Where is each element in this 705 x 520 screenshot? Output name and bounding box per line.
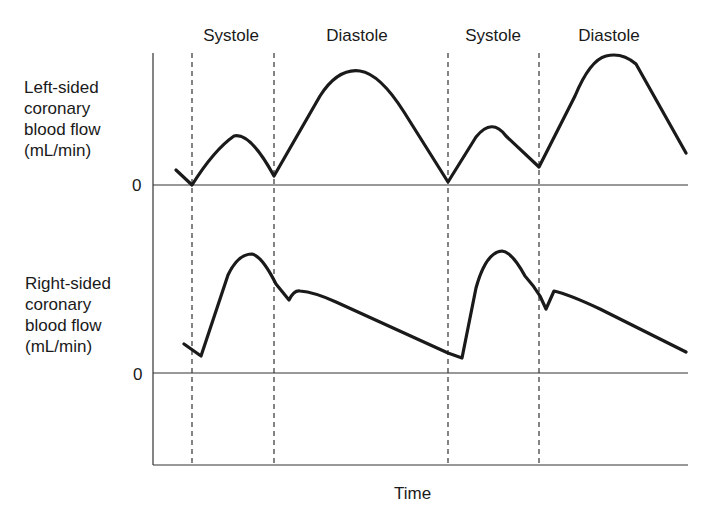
left-ylabel: Left-sided coronary blood flow (mL/min) xyxy=(24,77,101,161)
right-ylabel-line: coronary xyxy=(25,294,111,315)
phase-label-systole-2: Systole xyxy=(465,26,521,46)
right-ylabel-line: Right-sided xyxy=(25,273,111,294)
phase-label-systole-1: Systole xyxy=(203,26,259,46)
left-zero-label: 0 xyxy=(132,175,141,196)
right-ylabel-line: blood flow xyxy=(25,315,111,336)
x-axis-label: Time xyxy=(394,483,431,504)
right-ylabel-line: (mL/min) xyxy=(25,336,111,357)
right-zero-label: 0 xyxy=(133,364,142,385)
flow-chart xyxy=(0,0,705,520)
left-ylabel-line: (mL/min) xyxy=(24,140,101,161)
left-flow-curve xyxy=(176,55,686,185)
phase-label-diastole-2: Diastole xyxy=(578,26,639,46)
phase-label-diastole-1: Diastole xyxy=(326,26,387,46)
right-flow-curve xyxy=(184,251,686,358)
right-ylabel: Right-sided coronary blood flow (mL/min) xyxy=(25,273,111,357)
left-ylabel-line: Left-sided xyxy=(24,77,101,98)
left-ylabel-line: coronary xyxy=(24,98,101,119)
left-ylabel-line: blood flow xyxy=(24,119,101,140)
